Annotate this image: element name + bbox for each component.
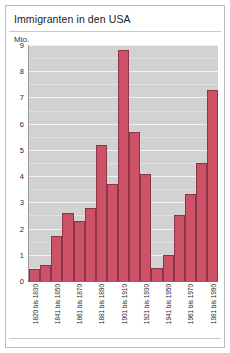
- bar-series: [29, 45, 218, 281]
- x-axis-tick-label: 1841 bis 1850: [53, 284, 60, 324]
- x-axis-tick-slot: 1901 bis 1910: [118, 284, 129, 336]
- x-axis-tick-slot: [85, 284, 96, 336]
- x-axis-tick-slot: [196, 284, 207, 336]
- x-axis-line: [28, 281, 218, 282]
- bar: [151, 268, 162, 281]
- x-axis-tick-slot: 1881 bis 1890: [96, 284, 107, 336]
- plot-area: [29, 45, 218, 281]
- x-axis-tick-label: 1861 bis 1870: [76, 284, 83, 324]
- bar: [163, 255, 174, 281]
- x-axis-tick-label: 1941 bis 1950: [165, 284, 172, 324]
- x-axis-tick-slot: 1941 bis 1950: [163, 284, 174, 336]
- x-axis-tick-slot: [129, 284, 140, 336]
- x-axis-tick-slot: [151, 284, 162, 336]
- x-axis-tick-slot: [62, 284, 73, 336]
- x-axis-tick-label: 1820 bis 1830: [31, 284, 38, 324]
- x-axis-tick-labels: 1820 bis 18301841 bis 18501861 bis 18701…: [29, 284, 218, 336]
- chart-figure: Immigranten in den USA Mio. 0123456789 1…: [0, 0, 230, 353]
- x-axis-tick-slot: 1921 bis 1930: [140, 284, 151, 336]
- x-axis-tick-slot: [174, 284, 185, 336]
- y-axis-line: [28, 45, 29, 282]
- y-axis-unit-label: Mio.: [14, 35, 29, 44]
- chart-title: Immigranten in den USA: [14, 13, 131, 25]
- bar: [185, 194, 196, 281]
- title-divider: [9, 31, 221, 32]
- bar: [62, 213, 73, 281]
- bar: [107, 184, 118, 281]
- x-axis-tick-slot: 1820 bis 1830: [29, 284, 40, 336]
- bar: [51, 236, 62, 281]
- bar: [196, 163, 207, 281]
- bar: [74, 221, 85, 281]
- x-axis-tick-label: 1961 bis 1970: [187, 284, 194, 324]
- bar: [96, 145, 107, 281]
- bar: [85, 208, 96, 281]
- x-axis-tick-slot: 1861 bis 1870: [74, 284, 85, 336]
- x-axis-tick-slot: [40, 284, 51, 336]
- bar: [118, 50, 129, 281]
- x-axis-tick-label: 1901 bis 1910: [120, 284, 127, 324]
- bottom-divider: [9, 338, 221, 339]
- x-axis-tick-slot: 1981 bis 1990: [207, 284, 218, 336]
- x-axis-tick-slot: 1841 bis 1850: [51, 284, 62, 336]
- x-axis-tick-label: 1921 bis 1930: [142, 284, 149, 324]
- x-axis-tick-label: 1981 bis 1990: [209, 284, 216, 324]
- bar: [174, 215, 185, 281]
- bar: [129, 132, 140, 281]
- x-axis-tick-slot: [107, 284, 118, 336]
- bar: [207, 90, 218, 281]
- x-axis-tick-label: 1881 bis 1890: [98, 284, 105, 324]
- x-axis-tick-slot: 1961 bis 1970: [185, 284, 196, 336]
- bar: [29, 269, 40, 281]
- bar: [40, 265, 51, 281]
- bar: [140, 174, 151, 282]
